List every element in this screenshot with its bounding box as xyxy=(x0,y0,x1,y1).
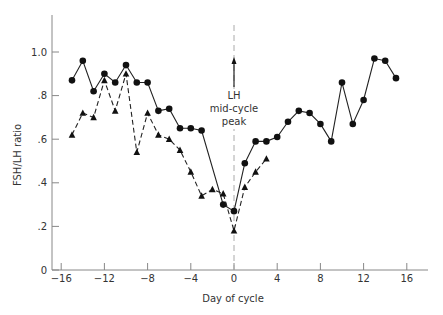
triangle-marker xyxy=(242,184,249,190)
circle-marker xyxy=(123,62,130,69)
annotation-line-peak: peak xyxy=(222,116,247,127)
triangle-marker xyxy=(188,168,195,174)
chart-svg: 0.2.4.6.81.0 −16−12−8−40481216 LH mid-cy… xyxy=(0,0,443,315)
y-ticks: 0.2.4.6.81.0 xyxy=(31,47,59,276)
triangle-marker xyxy=(69,131,76,137)
circle-marker xyxy=(306,110,313,117)
circle-marker xyxy=(69,77,76,84)
triangle-marker xyxy=(112,107,119,113)
triangle-marker xyxy=(144,109,151,115)
y-tick-label: 0 xyxy=(41,265,47,276)
circle-marker xyxy=(274,134,281,141)
triangle-marker xyxy=(80,109,87,115)
circle-marker xyxy=(80,57,87,64)
triangle-marker xyxy=(220,190,227,196)
circle-marker xyxy=(393,75,400,82)
circle-marker xyxy=(155,108,162,115)
circle-marker xyxy=(90,88,97,95)
y-tick-label: .4 xyxy=(37,177,47,188)
x-tick-label: −8 xyxy=(140,273,155,284)
annotation-line-mid-cycle: mid-cycle xyxy=(210,103,258,114)
x-tick-label: 12 xyxy=(357,273,370,284)
circle-marker xyxy=(101,71,108,78)
circle-marker xyxy=(285,118,292,125)
circle-marker xyxy=(350,121,357,128)
chart: 0.2.4.6.81.0 −16−12−8−40481216 LH mid-cy… xyxy=(0,0,443,315)
y-tick-label: .8 xyxy=(37,90,47,101)
circle-marker xyxy=(166,105,173,112)
circle-marker xyxy=(177,125,184,132)
x-tick-label: −4 xyxy=(183,273,198,284)
annotation-line-lh: LH xyxy=(227,90,240,101)
y-tick-label: .2 xyxy=(37,221,47,232)
x-tick-label: 16 xyxy=(400,273,413,284)
x-ticks: −16−12−8−40481216 xyxy=(51,263,414,284)
circle-marker xyxy=(188,125,195,132)
x-tick-label: −16 xyxy=(51,273,72,284)
circle-marker xyxy=(263,138,270,145)
axes xyxy=(52,15,428,270)
circle-marker xyxy=(328,138,335,145)
arrow-up-icon xyxy=(232,57,237,64)
triangle-marker xyxy=(231,227,238,233)
circle-marker xyxy=(382,57,389,64)
circle-marker xyxy=(339,79,346,86)
x-tick-label: −12 xyxy=(94,273,115,284)
y-axis-title: FSH/LH ratio xyxy=(12,124,23,186)
circle-marker xyxy=(296,108,303,115)
circle-marker xyxy=(242,160,249,167)
x-tick-label: 0 xyxy=(231,273,237,284)
circle-marker xyxy=(231,208,238,215)
lh-peak-annotation: LH mid-cycle peak xyxy=(208,57,260,129)
circle-marker xyxy=(360,97,367,104)
y-tick-label: .6 xyxy=(37,134,47,145)
circle-marker xyxy=(198,127,205,134)
triangle-marker xyxy=(155,131,162,137)
x-axis-title: Day of cycle xyxy=(202,293,264,304)
circle-marker xyxy=(371,55,378,62)
triangle-marker xyxy=(123,70,130,76)
triangle-marker xyxy=(209,186,216,192)
triangle-marker xyxy=(134,149,141,155)
triangle-marker xyxy=(263,155,270,161)
circle-marker xyxy=(134,79,141,86)
x-tick-label: 4 xyxy=(274,273,280,284)
circle-marker xyxy=(144,79,151,86)
circle-marker xyxy=(112,79,119,86)
circle-marker xyxy=(252,138,259,145)
circle-marker xyxy=(317,121,324,128)
y-tick-label: 1.0 xyxy=(31,47,47,58)
x-tick-label: 8 xyxy=(317,273,323,284)
triangle-marker xyxy=(198,192,205,198)
